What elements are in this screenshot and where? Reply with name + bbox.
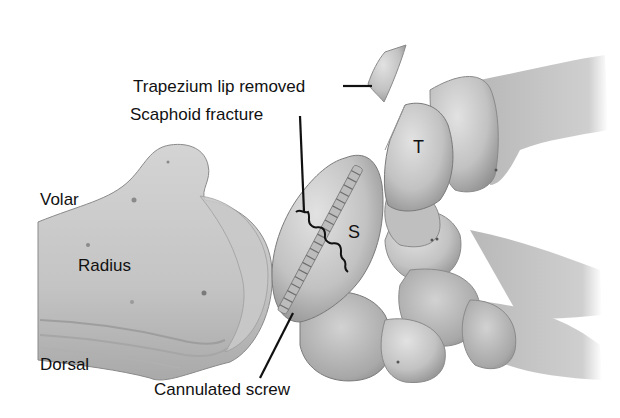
scaphoid-fracture-label: Scaphoid fracture xyxy=(130,106,263,123)
wrist-anatomy-illustration: Trapezium lip removed Scaphoid fracture … xyxy=(0,0,620,418)
scaphoid-letter: S xyxy=(348,223,360,241)
trapezium-lip-label: Trapezium lip removed xyxy=(133,78,305,95)
radius-label: Radius xyxy=(78,257,131,274)
bone-drawing xyxy=(0,0,620,418)
trapezium-bone xyxy=(384,103,453,211)
cannulated-screw-leader xyxy=(260,313,293,378)
trapezium-letter: T xyxy=(413,138,424,156)
cannulated-screw-label: Cannulated screw xyxy=(154,381,290,398)
trapezium-lip-fragment xyxy=(368,45,406,102)
radius-bone xyxy=(38,144,272,380)
volar-label: Volar xyxy=(40,191,79,208)
dorsal-label: Dorsal xyxy=(40,356,89,373)
